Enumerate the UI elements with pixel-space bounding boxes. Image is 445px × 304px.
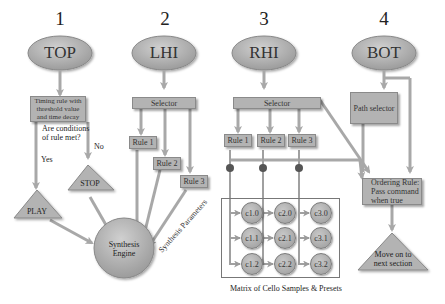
- column-number-3: 3: [249, 8, 279, 30]
- condition-question: Are conditions of rule met?: [42, 124, 90, 142]
- path-selector-box: Path selector: [350, 92, 398, 124]
- no-label: No: [94, 142, 104, 151]
- play-label: PLAY: [23, 207, 51, 216]
- matrix-cell: c1.2: [241, 253, 263, 275]
- junction-dot: [226, 164, 234, 172]
- yes-label: Yes: [41, 155, 53, 164]
- junction-dot: [295, 164, 303, 172]
- top-node-label: TOP: [30, 43, 90, 63]
- rhi-rule-1: Rule 1: [224, 134, 252, 147]
- bot-node-label: BOT: [354, 43, 414, 63]
- junction-dot: [259, 164, 267, 172]
- ordering-rule-box: Ordering Rule: Pass command when true: [362, 178, 422, 205]
- timing-rule-box: Timing rule with threshold value and tim…: [30, 96, 86, 122]
- lhi-node-label: LHI: [134, 43, 194, 63]
- next-section-label: Move on to next section: [370, 250, 416, 268]
- matrix-cell: c3.1: [310, 227, 332, 249]
- matrix-cell: c2.2: [274, 253, 296, 275]
- rhi-node-label: RHI: [234, 43, 294, 63]
- lhi-rule-3: Rule 3: [180, 175, 208, 188]
- column-number-4: 4: [369, 8, 399, 30]
- matrix-cell: c2.1: [274, 227, 296, 249]
- matrix-cell: c1.0: [241, 202, 263, 224]
- rhi-rule-2: Rule 2: [257, 134, 285, 147]
- matrix-caption: Matrix of Cello Samples & Presets: [230, 284, 342, 293]
- matrix-cell: c3.2: [310, 253, 332, 275]
- matrix-cell: c3.0: [310, 202, 332, 224]
- column-number-1: 1: [45, 8, 75, 30]
- matrix-cell: c2.0: [274, 202, 296, 224]
- stop-label: STOP: [76, 179, 104, 188]
- rhi-selector-box: Selector: [233, 97, 321, 109]
- lhi-rule-1: Rule 1: [129, 136, 157, 149]
- rhi-rule-3: Rule 3: [288, 134, 316, 147]
- synthesis-engine-label: Synthesis Engine: [100, 240, 148, 258]
- lhi-rule-2: Rule 2: [153, 157, 181, 170]
- lhi-selector-box: Selector: [132, 97, 196, 109]
- matrix-cell: c1.1: [241, 227, 263, 249]
- column-number-2: 2: [150, 8, 180, 30]
- synthesis-parameters-label: Synthesis Parameters: [157, 198, 209, 255]
